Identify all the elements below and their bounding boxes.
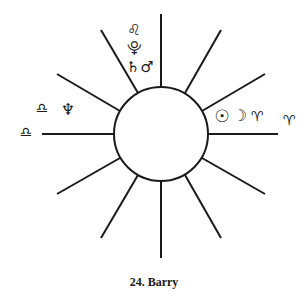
- libra-descendant-icon: ♎: [20, 125, 33, 139]
- mars-planet-icon: ♂: [140, 60, 153, 75]
- inner-circle: [114, 87, 208, 181]
- house-spoke-8: [57, 158, 120, 194]
- saturn-planet-icon: ♄: [126, 60, 139, 75]
- house-spoke-9: [101, 175, 138, 238]
- chart-caption: 24. Barry: [0, 275, 308, 290]
- aries-ascendant-icon: ♈: [283, 113, 296, 127]
- neptune-planet-icon: ♆: [61, 102, 75, 118]
- leo-sign-icon: ♌: [127, 23, 140, 38]
- astrology-wheel: [0, 0, 308, 296]
- house-spoke-11: [185, 175, 221, 238]
- moon-planet-icon: ☽: [233, 108, 247, 124]
- pluto-planet-icon: ⯓: [127, 41, 142, 56]
- sun-planet-icon: ☉: [214, 108, 229, 125]
- house-spoke-3: [185, 30, 221, 93]
- house-spoke-12: [202, 158, 265, 194]
- aries-sign-icon: ♈: [251, 109, 264, 123]
- libra-sign-icon: ♎: [36, 101, 49, 115]
